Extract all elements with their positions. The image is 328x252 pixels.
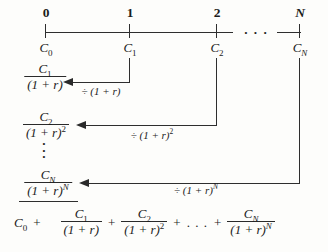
- vertical-ellipsis: · · ·: [42, 141, 46, 161]
- time-label-n: N: [290, 5, 310, 21]
- present-value-timeline-figure: · · · 0 1 2 N C0 C1 C2 CN ÷ (1 + r) ÷ (1…: [0, 0, 328, 252]
- numerator-symbol: C: [41, 167, 50, 182]
- denominator-text: (1 + r): [124, 222, 160, 237]
- cashflow-subscript: 0: [48, 48, 53, 58]
- formula-lead-term: C0: [14, 215, 27, 230]
- plus-operator: +: [172, 215, 181, 230]
- tick-mark-1: [129, 24, 130, 38]
- divide-label-2: ÷ (1 + r)2: [131, 129, 174, 141]
- divide-label-exponent: 2: [170, 127, 174, 136]
- time-label-0: 0: [36, 5, 56, 21]
- discounted-fraction-1: C1 (1 + r): [24, 61, 66, 92]
- denominator-text: (1 + r): [27, 183, 63, 198]
- fraction-denominator: (1 + r)2: [121, 221, 167, 238]
- timeline-ellipsis: · · ·: [244, 25, 269, 41]
- cashflow-symbol: C: [123, 40, 132, 55]
- fraction-numerator: C1: [61, 206, 103, 221]
- denominator-text: (1 + r): [27, 77, 63, 92]
- fraction-denominator: (1 + r)2: [23, 124, 69, 140]
- lead-symbol: C: [14, 215, 23, 230]
- fraction-numerator: CN: [227, 206, 275, 221]
- arrowhead-left-icon: [76, 121, 86, 129]
- denominator-exponent: N: [266, 221, 272, 231]
- fraction-numerator: C2: [23, 109, 69, 124]
- arrow-line-1: [66, 82, 130, 83]
- denominator-text: (1 + r): [64, 222, 100, 237]
- denominator-exponent: 2: [62, 124, 67, 134]
- fraction-denominator: (1 + r): [61, 221, 103, 238]
- timeline-line-right-segment: [277, 32, 301, 33]
- cashflow-subscript: 2: [219, 48, 224, 58]
- cashflow-subscript: 1: [132, 48, 137, 58]
- divide-label-1: ÷ (1 + r): [82, 85, 121, 97]
- sum-underline: [19, 201, 78, 202]
- denominator-text: (1 + r): [230, 222, 266, 237]
- time-label-2: 2: [207, 5, 227, 21]
- cashflow-label-n: CN: [293, 40, 308, 55]
- cashflow-symbol: C: [293, 40, 302, 55]
- tick-mark-2: [216, 24, 217, 38]
- fraction-denominator: (1 + r): [24, 76, 66, 92]
- cashflow-label-1: C1: [123, 40, 136, 55]
- fraction-numerator: C1: [24, 61, 66, 76]
- cashflow-subscript: N: [301, 48, 307, 58]
- denominator-exponent: N: [63, 182, 69, 192]
- fraction-numerator: C2: [121, 206, 167, 221]
- discounted-fraction-2: C2 (1 + r)2: [23, 109, 69, 140]
- drop-line-n: [299, 58, 300, 183]
- divide-label-exponent: N: [213, 182, 218, 191]
- tick-mark-0: [45, 24, 46, 38]
- plus-operator: +: [107, 215, 116, 230]
- cashflow-symbol: C: [210, 40, 219, 55]
- cashflow-label-2: C2: [210, 40, 223, 55]
- plus-operator: +: [32, 215, 41, 230]
- numerator-symbol: C: [39, 109, 48, 124]
- arrow-line-2: [79, 125, 217, 126]
- fraction-denominator: (1 + r)N: [227, 221, 275, 238]
- divide-label-text: ÷ (1 + r): [174, 184, 213, 196]
- timeline-line-left-segment: [46, 32, 233, 33]
- numerator-symbol: C: [38, 61, 47, 76]
- time-label-1: 1: [120, 5, 140, 21]
- lead-subscript: 0: [23, 222, 28, 232]
- formula-fraction-2: C2 (1 + r)2: [121, 206, 167, 238]
- drop-line-1: [129, 58, 130, 82]
- fraction-denominator: (1 + r)N: [24, 182, 72, 198]
- formula-ellipsis: . . .: [187, 215, 208, 230]
- denominator-exponent: 2: [160, 221, 165, 231]
- tick-mark-n: [299, 24, 300, 38]
- formula-fraction-n: CN (1 + r)N: [227, 206, 275, 238]
- fraction-numerator: CN: [24, 167, 72, 182]
- divide-label-text: ÷ (1 + r): [82, 85, 121, 97]
- divide-label-n: ÷ (1 + r)N: [174, 184, 218, 196]
- discounted-fraction-n: CN (1 + r)N: [24, 167, 72, 198]
- formula-fraction-1: C1 (1 + r): [61, 206, 103, 238]
- arrowhead-left-icon: [79, 179, 89, 187]
- present-value-formula: C0 + C1 (1 + r) + C2 (1 + r)2 + . . . + …: [14, 206, 275, 238]
- cashflow-symbol: C: [39, 40, 48, 55]
- drop-line-2: [216, 58, 217, 125]
- cashflow-label-0: C0: [39, 40, 52, 55]
- plus-operator: +: [213, 215, 222, 230]
- divide-label-text: ÷ (1 + r): [131, 129, 170, 141]
